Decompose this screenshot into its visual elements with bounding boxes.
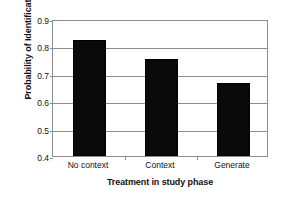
y-axis-tick-mark <box>50 48 53 49</box>
bar <box>145 59 178 156</box>
x-axis-tick-mark <box>125 156 126 160</box>
bar <box>217 83 250 156</box>
y-axis-tick-mark <box>50 21 53 22</box>
x-axis-tick-mark <box>197 156 198 160</box>
y-axis-title: Probability of Identification <box>23 0 33 123</box>
plot-area: 0.90.80.70.60.50.4 <box>52 20 268 157</box>
x-axis-category-label: Generate <box>182 161 282 170</box>
y-axis-tick-mark <box>50 158 53 159</box>
bar <box>73 40 106 156</box>
x-axis-title: Treatment in study phase <box>52 177 268 187</box>
y-axis-tick-mark <box>50 103 53 104</box>
y-axis-tick-mark <box>50 131 53 132</box>
y-axis-tick-mark <box>50 76 53 77</box>
bar-chart-figure: Probability of Identification 0.90.80.70… <box>0 0 285 197</box>
